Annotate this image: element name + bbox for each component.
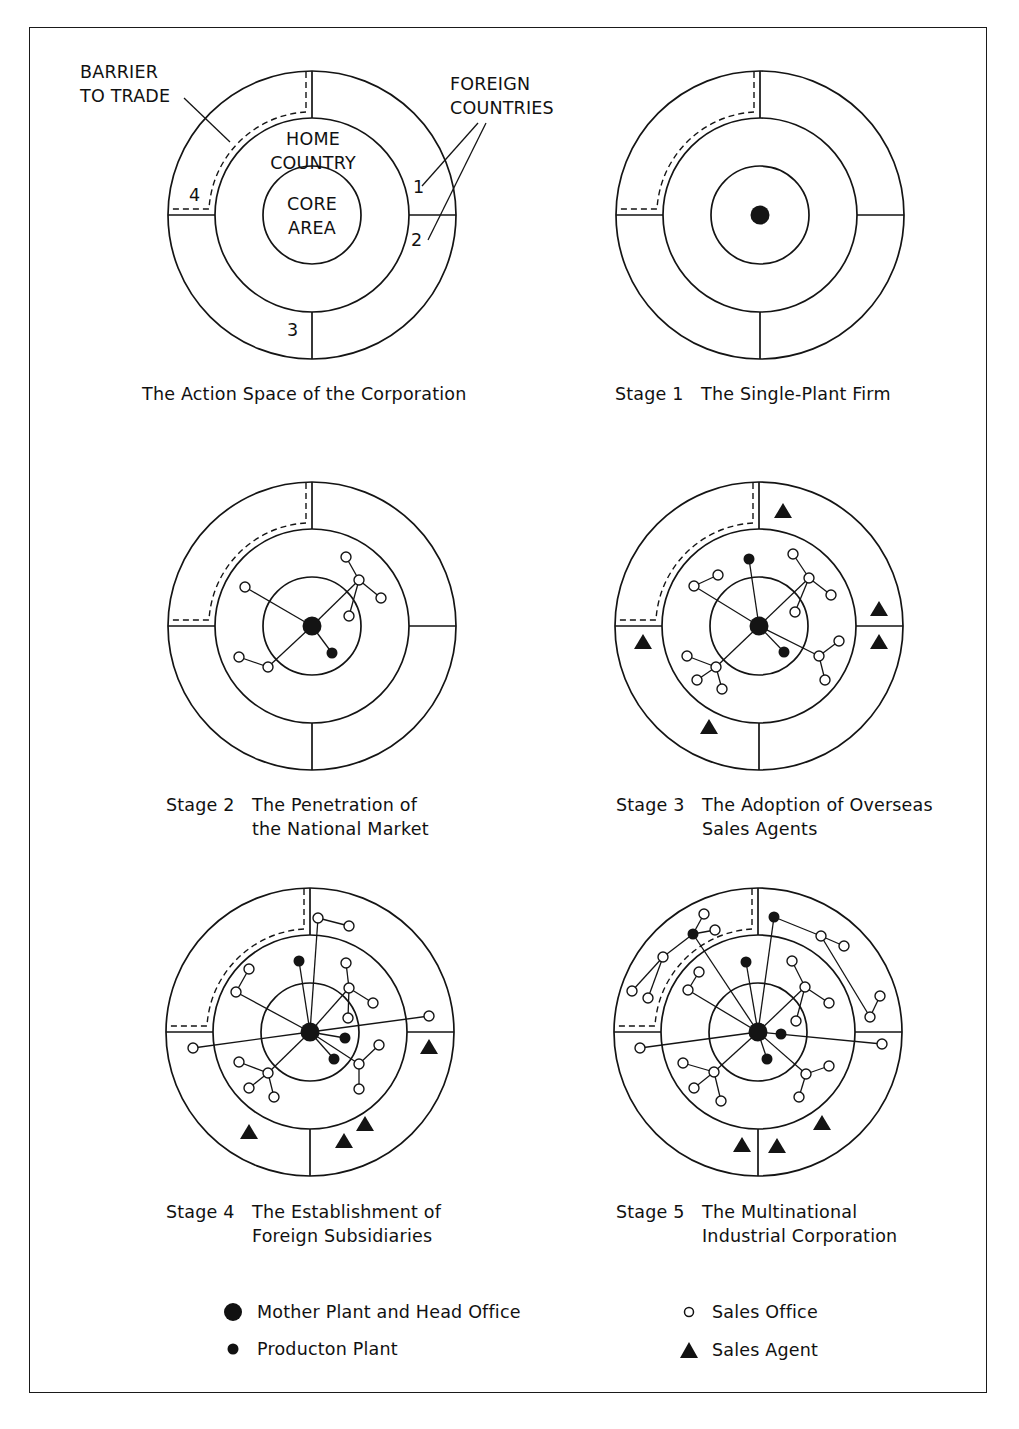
caption-title: The Action Space of the Corporation: [142, 384, 466, 404]
production-plant-icon: [741, 957, 752, 968]
panel-diagram-stage-1: [616, 71, 904, 359]
sales-office-icon: [865, 1012, 875, 1022]
sales-office-icon: [877, 1039, 887, 1049]
legend-mother-plant: Mother Plant and Head Office: [216, 1300, 521, 1324]
caption-stage-2: Stage 2The Penetration of the National M…: [166, 793, 429, 841]
sales-office-icon: [711, 662, 721, 672]
production-plant-icon: [762, 1054, 773, 1065]
network-link: [688, 990, 758, 1032]
sales-agent-triangle-icon: [240, 1124, 258, 1139]
caption-stage-number: Stage 2: [166, 793, 252, 817]
caption-title: The Single-Plant Firm: [701, 384, 891, 404]
sales-office-icon: [354, 1084, 364, 1094]
region-4-label: 4: [189, 183, 200, 207]
network-link: [774, 917, 821, 936]
network-link: [746, 962, 758, 1032]
network-link: [694, 586, 759, 626]
caption-title: The Multinational: [702, 1202, 857, 1222]
sales-office-icon: [716, 1096, 726, 1106]
sales-agent-triangle-icon: [700, 719, 718, 734]
sales-office-icon: [682, 651, 692, 661]
caption-stage-4: Stage 4The Establishment of Foreign Subs…: [166, 1200, 441, 1248]
sales-office-icon: [635, 1043, 645, 1053]
sales-office-icon: [244, 964, 254, 974]
sales-office-icon: [343, 1013, 353, 1023]
sales-agent-triangle-icon: [870, 601, 888, 616]
network-link: [193, 1032, 310, 1048]
sales-office-icon: [643, 993, 653, 1003]
sales-agent-triangle-icon: [813, 1115, 831, 1130]
production-plant-icon: [779, 647, 790, 658]
sales-office-icon: [683, 985, 693, 995]
sales-office-icon: [678, 1058, 688, 1068]
sales-office-icon: [354, 575, 364, 585]
caption-stage-5: Stage 5The Multinational Industrial Corp…: [616, 1200, 897, 1248]
sales-office-icon: [788, 549, 798, 559]
sales-office-icon: [354, 1059, 364, 1069]
open-circle-icon: [672, 1305, 706, 1319]
caption-stage-number: Stage 1: [615, 382, 701, 406]
panel-diagram-stage-3: [615, 482, 903, 770]
sales-office-icon: [816, 931, 826, 941]
sales-office-icon: [826, 590, 836, 600]
sales-office-icon: [694, 967, 704, 977]
sales-office-icon: [344, 921, 354, 931]
region-3-label: 3: [287, 318, 298, 342]
panel-diagram-stage-2: [168, 482, 456, 770]
legend-label: Mother Plant and Head Office: [257, 1300, 521, 1324]
small-filled-circle-icon: [216, 1342, 250, 1356]
mother-plant-head-office-icon: [750, 617, 769, 636]
caption-title-line2: the National Market: [166, 817, 429, 841]
sales-office-icon: [244, 1083, 254, 1093]
sales-office-icon: [787, 956, 797, 966]
sales-office-icon: [875, 991, 885, 1001]
sales-office-icon: [824, 1061, 834, 1071]
sales-office-icon: [689, 1083, 699, 1093]
production-plant-icon: [340, 1033, 351, 1044]
network-link: [299, 961, 310, 1032]
sales-agent-triangle-icon: [356, 1116, 374, 1131]
sales-office-icon: [804, 573, 814, 583]
sales-office-icon: [234, 1057, 244, 1067]
sales-office-icon: [801, 1069, 811, 1079]
sales-office-icon: [814, 651, 824, 661]
panel-diagram-stage-5: [614, 888, 902, 1176]
sales-agent-triangle-icon: [733, 1137, 751, 1152]
mother-plant-head-office-icon: [301, 1023, 320, 1042]
sales-office-icon: [231, 987, 241, 997]
sales-office-icon: [800, 982, 810, 992]
legend-label: Sales Office: [712, 1300, 818, 1324]
sales-office-icon: [263, 1068, 273, 1078]
sales-office-icon: [692, 675, 702, 685]
caption-stage-1: Stage 1The Single-Plant Firm: [615, 382, 891, 406]
sales-agent-triangle-icon: [420, 1039, 438, 1054]
caption-stage-number: Stage 3: [616, 793, 702, 817]
caption-title: The Adoption of Overseas: [702, 795, 933, 815]
network-link: [693, 934, 758, 1032]
network-link: [648, 957, 663, 998]
barrier-to-trade-label: BARRIER TO TRADE: [80, 60, 170, 108]
sales-office-icon: [710, 925, 720, 935]
foreign-leader-line-2: [428, 123, 486, 240]
sales-office-icon: [689, 581, 699, 591]
network-link: [632, 957, 663, 991]
production-plant-icon: [294, 956, 305, 967]
legend-label: Producton Plant: [257, 1337, 398, 1361]
sales-office-icon: [344, 983, 354, 993]
production-plant-icon: [327, 648, 338, 659]
sales-office-icon: [269, 1092, 279, 1102]
caption-stage-3: Stage 3The Adoption of Overseas Sales Ag…: [616, 793, 933, 841]
network-link: [245, 587, 312, 626]
sales-office-icon: [713, 570, 723, 580]
core-area-label: CORE AREA: [272, 192, 352, 240]
sales-office-icon: [794, 1092, 804, 1102]
sales-agent-triangle-icon: [774, 503, 792, 518]
caption-title-line2: Foreign Subsidiaries: [166, 1224, 441, 1248]
sales-office-icon: [834, 636, 844, 646]
sales-office-icon: [368, 998, 378, 1008]
caption-title: The Establishment of: [252, 1202, 441, 1222]
sales-agent-triangle-icon: [768, 1138, 786, 1153]
sales-office-icon: [234, 652, 244, 662]
network-link: [310, 1016, 429, 1032]
mother-plant-head-office-icon: [303, 617, 322, 636]
